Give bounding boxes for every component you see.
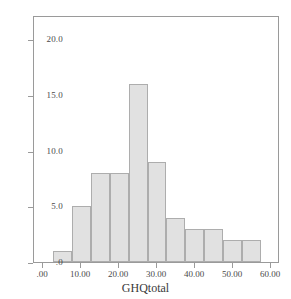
x-tick-label: 40.00 <box>184 269 204 279</box>
y-tick-label: 10.0 <box>46 146 63 156</box>
x-tick-label: 50.00 <box>222 269 242 279</box>
x-tick-mark <box>232 263 233 268</box>
y-tick-label: 15.0 <box>46 90 63 100</box>
y-tick-label: .0 <box>56 257 63 267</box>
y-tick-mark <box>28 40 33 41</box>
x-tick-mark <box>156 263 157 268</box>
x-tick-mark <box>270 263 271 268</box>
x-tick-mark <box>194 263 195 268</box>
x-tick-mark <box>80 263 81 268</box>
x-tick-label: 20.00 <box>108 269 128 279</box>
y-tick-mark <box>28 152 33 153</box>
x-tick-mark <box>118 263 119 268</box>
x-tick-label: 60.00 <box>260 269 280 279</box>
y-tick-label: 20.0 <box>46 34 63 44</box>
y-tick-mark <box>28 96 33 97</box>
y-tick-label: 5.0 <box>51 201 63 211</box>
x-tick-label: .00 <box>36 269 47 279</box>
x-tick-label: 10.00 <box>70 269 90 279</box>
y-tick-mark <box>28 263 33 264</box>
x-axis-title: GHQtotal <box>0 281 291 296</box>
histogram-chart: .05.010.015.020.0 .0010.0020.0030.0040.0… <box>0 0 291 299</box>
x-tick-label: 30.00 <box>146 269 166 279</box>
x-tick-mark <box>42 263 43 268</box>
y-axis: .05.010.015.020.0 <box>0 0 291 299</box>
y-tick-mark <box>28 207 33 208</box>
